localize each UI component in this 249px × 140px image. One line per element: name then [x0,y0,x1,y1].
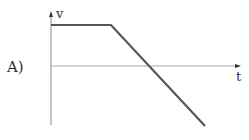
y-axis-label: v [55,6,64,21]
x-axis-arrow-icon [235,64,241,68]
y-axis-arrow-icon [49,11,53,17]
x-axis-label: t [236,69,242,84]
velocity-line [51,25,205,126]
velocity-time-chart: v t [0,0,249,140]
